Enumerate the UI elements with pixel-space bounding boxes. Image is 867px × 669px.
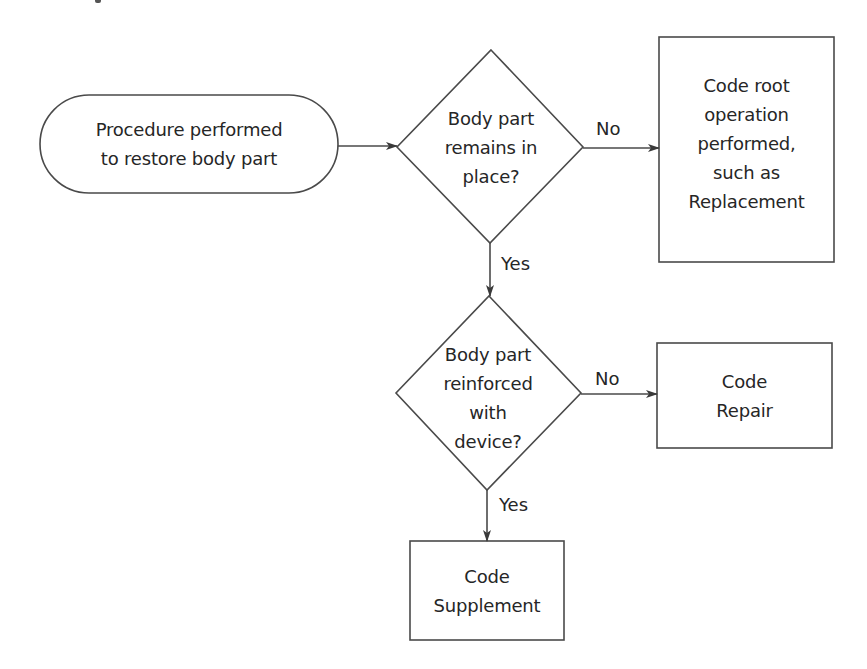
repair-box	[657, 343, 832, 448]
flowchart-canvas	[0, 0, 867, 669]
supplement-box	[410, 541, 564, 640]
replacement-box	[659, 37, 834, 262]
start-terminator	[40, 95, 338, 193]
decision-remains-in-place-diamond	[397, 50, 583, 243]
edge-label-decision2-yes: Yes	[499, 495, 528, 515]
edge-label-decision1-no: No	[596, 119, 620, 139]
decision-reinforced-diamond	[396, 296, 581, 490]
edge-label-decision1-yes: Yes	[501, 254, 530, 274]
edge-label-decision2-no: No	[595, 369, 619, 389]
